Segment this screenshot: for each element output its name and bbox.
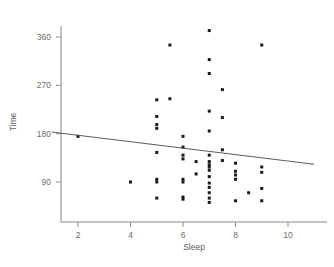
y-tick-label: 90 xyxy=(42,177,52,187)
data-point xyxy=(155,115,158,118)
data-point xyxy=(260,44,263,47)
plot-canvas: 90180270360 Time 246810 Sleep xyxy=(0,0,334,267)
data-point xyxy=(208,182,211,185)
data-point xyxy=(234,199,237,202)
y-tick-label: 360 xyxy=(37,32,51,42)
data-point xyxy=(208,165,211,168)
data-point xyxy=(247,191,250,194)
data-point xyxy=(221,88,224,91)
data-point xyxy=(208,201,211,204)
data-point xyxy=(155,181,158,184)
data-point xyxy=(208,169,211,172)
data-point xyxy=(208,154,211,157)
data-point xyxy=(182,178,185,181)
data-point xyxy=(182,181,185,184)
data-point xyxy=(221,148,224,151)
data-point xyxy=(208,175,211,178)
data-point xyxy=(260,171,263,174)
x-axis-title: Sleep xyxy=(183,242,205,252)
data-point xyxy=(260,165,263,168)
data-point xyxy=(234,162,237,165)
data-point xyxy=(168,97,171,100)
y-tick-labels: 90180270360 xyxy=(37,32,51,187)
data-point xyxy=(195,160,198,163)
y-tick-label: 270 xyxy=(37,80,51,90)
data-point xyxy=(208,29,211,32)
x-tick-label: 2 xyxy=(76,230,81,240)
y-tick-marks xyxy=(56,37,61,182)
data-point xyxy=(208,197,211,200)
x-tick-labels: 246810 xyxy=(76,230,293,240)
data-point xyxy=(182,157,185,160)
x-tick-label: 6 xyxy=(181,230,186,240)
data-point xyxy=(221,159,224,162)
data-point xyxy=(208,191,211,194)
data-point xyxy=(208,129,211,132)
data-point xyxy=(208,58,211,61)
y-axis: 90180270360 Time xyxy=(8,26,61,222)
data-point xyxy=(182,198,185,201)
data-point xyxy=(208,160,211,163)
data-point xyxy=(234,174,237,177)
data-point xyxy=(234,178,237,181)
data-point xyxy=(182,154,185,157)
data-point xyxy=(168,44,171,47)
y-tick-label: 180 xyxy=(37,129,51,139)
data-point xyxy=(195,172,198,175)
data-point xyxy=(208,186,211,189)
data-point xyxy=(129,181,132,184)
x-tick-label: 10 xyxy=(283,230,293,240)
data-point xyxy=(155,127,158,130)
x-tick-label: 4 xyxy=(128,230,133,240)
data-point xyxy=(155,151,158,154)
data-point xyxy=(155,123,158,126)
y-axis-title: Time xyxy=(8,112,18,131)
data-point xyxy=(234,170,237,173)
x-tick-marks xyxy=(78,222,288,227)
x-tick-label: 8 xyxy=(233,230,238,240)
data-point xyxy=(155,197,158,200)
data-point-group xyxy=(77,29,264,204)
data-point xyxy=(208,110,211,113)
data-point xyxy=(260,187,263,190)
data-point xyxy=(260,199,263,202)
data-point xyxy=(182,135,185,138)
scatter-plot-figure: 90180270360 Time 246810 Sleep xyxy=(0,0,334,267)
data-point xyxy=(155,98,158,101)
data-point xyxy=(155,178,158,181)
data-point xyxy=(221,116,224,119)
data-point xyxy=(208,72,211,75)
x-axis: 246810 Sleep xyxy=(61,222,327,252)
